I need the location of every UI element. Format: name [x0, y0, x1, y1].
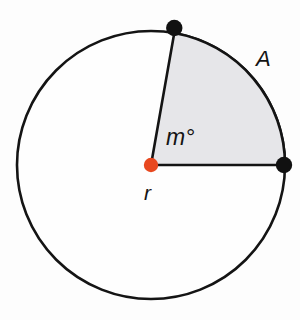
circle-diagram-svg [0, 0, 300, 320]
radius-label: r [144, 182, 151, 203]
circle-sector-diagram: m° r A [0, 0, 300, 320]
angle-label: m° [166, 126, 195, 149]
arc-endpoint-right-dot [276, 157, 292, 173]
area-label: A [256, 48, 271, 70]
center-point-dot [144, 158, 158, 172]
arc-endpoint-upper-dot [166, 20, 182, 36]
